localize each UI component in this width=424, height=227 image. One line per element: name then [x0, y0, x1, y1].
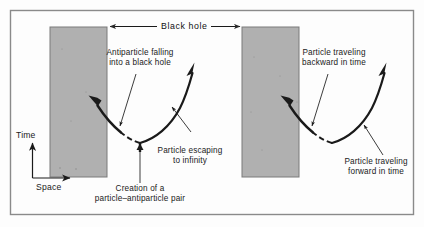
annotation-pair-creation-line2: particle–antiparticle pair	[70, 194, 210, 204]
leader-forward-in-time	[364, 125, 383, 155]
annotation-antiparticle-falling: Antiparticle falling into a black hole	[94, 48, 186, 69]
leader-particle-escaping	[172, 107, 191, 132]
diagram-canvas	[0, 0, 424, 227]
pair-creation-marker-left	[137, 143, 144, 152]
annotation-antiparticle-falling-line2: into a black hole	[94, 58, 186, 68]
annotation-particle-escaping-line2: to infinity	[144, 156, 236, 166]
annotation-backward-in-time-line1: Particle traveling	[288, 48, 380, 58]
worldline-left-escaping	[140, 63, 195, 144]
annotation-forward-in-time: Particle traveling forward in time	[330, 157, 422, 178]
figure-container: Black hole Time Space Antiparticle falli…	[0, 0, 424, 227]
worldline-right-forward	[332, 63, 387, 144]
leader-backward-in-time	[312, 74, 328, 126]
axis-label-space: Space	[36, 182, 61, 192]
annotation-particle-escaping-line1: Particle escaping	[144, 146, 236, 156]
annotation-pair-creation: Creation of a particle–antiparticle pair	[70, 184, 210, 205]
annotation-particle-escaping: Particle escaping to infinity	[144, 146, 236, 167]
annotation-antiparticle-falling-line1: Antiparticle falling	[94, 48, 186, 58]
leader-antiparticle-falling	[120, 74, 136, 126]
annotation-pair-creation-line1: Creation of a	[70, 184, 210, 194]
axis-label-time: Time	[16, 130, 36, 140]
annotation-backward-in-time-line2: backward in time	[288, 58, 380, 68]
black-hole-title: Black hole	[158, 21, 211, 31]
annotation-forward-in-time-line1: Particle traveling	[330, 157, 422, 167]
annotation-backward-in-time: Particle traveling backward in time	[288, 48, 380, 69]
annotation-forward-in-time-line2: forward in time	[330, 167, 422, 177]
